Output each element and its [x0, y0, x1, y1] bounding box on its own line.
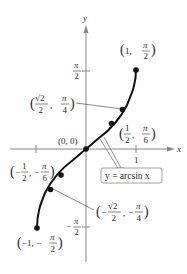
point-neg1-negpi2 [34, 225, 40, 231]
svg-text:1,: 1, [125, 46, 132, 56]
svg-text:6: 6 [144, 135, 149, 145]
svg-text:π: π [42, 161, 47, 171]
callout-leader-2 [104, 137, 121, 168]
svg-text:2: 2 [75, 227, 79, 237]
y-axis-arrow-icon [84, 25, 89, 33]
svg-text:π: π [62, 93, 67, 103]
svg-text:2: 2 [39, 105, 44, 115]
svg-text:π: π [74, 60, 79, 70]
svg-text:1: 1 [22, 161, 27, 171]
callout-leader [100, 139, 124, 168]
svg-text:(: ( [119, 126, 124, 142]
function-label: y = arcsin x [105, 171, 150, 181]
svg-text:π: π [74, 216, 79, 226]
point-negsqrt2-negpi4 [48, 187, 54, 193]
label-origin: (0, 0) [58, 136, 78, 146]
svg-text:π: π [50, 232, 55, 242]
svg-text:,: , [123, 208, 125, 218]
svg-text:−: − [66, 221, 71, 231]
x-tick-1-label: 1 [134, 155, 139, 165]
svg-text:2: 2 [144, 51, 149, 61]
point-1-pi2 [133, 67, 139, 73]
label-neghalf-negpi6: ( − 1 2 , − π 6 ) [10, 161, 55, 183]
svg-text:): ) [70, 96, 75, 112]
svg-text:4: 4 [137, 213, 142, 223]
svg-text:√2: √2 [108, 201, 117, 211]
function-callout: y = arcsin x [101, 168, 162, 183]
svg-text:2: 2 [125, 135, 130, 145]
y-tick-bottom-label: − π 2 [66, 216, 81, 237]
svg-text:): ) [151, 126, 156, 142]
svg-text:4: 4 [63, 105, 68, 115]
svg-text:1: 1 [125, 123, 130, 133]
point-neghalf-negpi6 [58, 172, 64, 178]
label-neg1-negpi2: ( −1, − π 2 ) [17, 232, 63, 254]
arcsin-graph: y x 1 π 2 − π 2 ( 1, π 2 ) ( [0, 0, 187, 274]
svg-text:−: − [128, 207, 133, 217]
svg-text:,: , [132, 130, 134, 140]
svg-text:): ) [58, 235, 63, 251]
svg-text:π: π [143, 40, 148, 50]
svg-text:2: 2 [112, 213, 117, 223]
svg-text:): ) [151, 42, 156, 58]
label-sqrt2-pi4: ( √2 2 , π 4 ) [30, 93, 75, 115]
point-origin [83, 146, 89, 152]
leader-p6 [53, 189, 94, 210]
point-half-pi6 [109, 121, 115, 127]
x-axis-label: x [176, 144, 181, 154]
svg-text:2: 2 [75, 71, 79, 81]
svg-text:√2: √2 [35, 93, 44, 103]
svg-text:6: 6 [43, 173, 48, 183]
y-axis-label: y [82, 13, 87, 23]
svg-text:−1, −: −1, − [22, 238, 41, 248]
label-1-pi2: ( 1, π 2 ) [120, 40, 156, 61]
y-tick-top-label: π 2 [73, 60, 81, 81]
svg-text:π: π [143, 123, 148, 133]
svg-text:,: , [29, 168, 31, 178]
svg-text:): ) [50, 164, 55, 180]
svg-text:−: − [101, 207, 106, 217]
label-negsqrt2-negpi4: ( − √2 2 , − π 4 ) [96, 201, 149, 223]
svg-text:): ) [144, 204, 149, 220]
point-sqrt2-pi4 [120, 107, 126, 113]
svg-text:π: π [136, 201, 141, 211]
svg-text:,: , [50, 100, 52, 110]
label-half-pi6: ( 1 2 , π 6 ) [119, 123, 156, 145]
svg-text:−: − [34, 167, 39, 177]
svg-text:2: 2 [51, 244, 56, 254]
svg-text:−: − [15, 167, 20, 177]
x-axis-arrow-icon [167, 147, 175, 152]
leader-p2 [76, 103, 122, 109]
svg-text:2: 2 [22, 173, 27, 183]
